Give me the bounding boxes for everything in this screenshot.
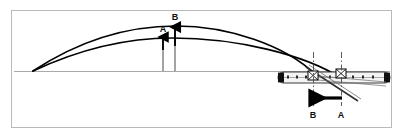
diagram-canvas: A B — [0, 0, 402, 138]
label-height-a: A — [160, 24, 167, 34]
pivot-block-a — [336, 69, 346, 78]
label-centerline-a: A — [338, 110, 345, 120]
bar-left-end-fill — [278, 73, 284, 83]
label-centerline-b: B — [310, 110, 317, 120]
bar-right-end-fill — [384, 73, 390, 83]
label-height-b: B — [172, 12, 179, 22]
pivot-block-b — [308, 71, 318, 80]
trajectory-diagram: A B — [0, 0, 402, 138]
